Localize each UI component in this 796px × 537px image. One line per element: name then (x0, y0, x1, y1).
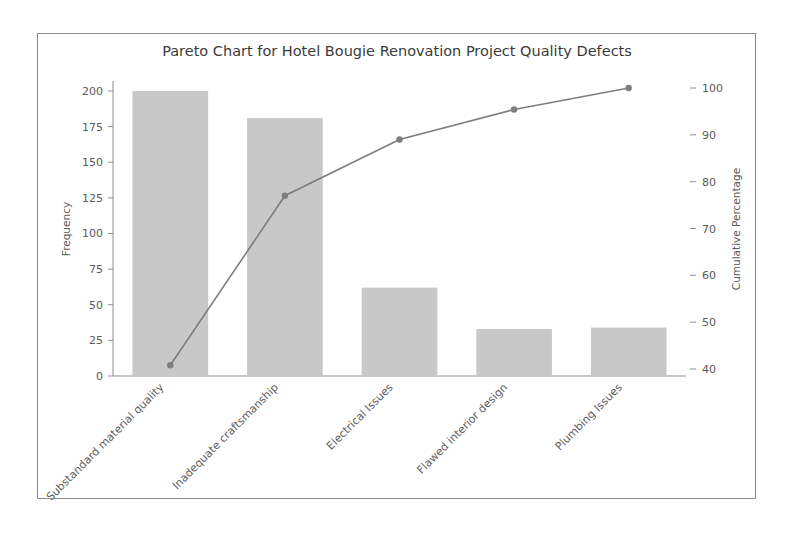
x-tick-label: Electrical Issues (324, 381, 396, 453)
y2-tick-label: 60 (702, 269, 716, 282)
x-tick-label: Plumbing Issues (553, 381, 625, 453)
x-tick-label: Inadequate craftsmanship (170, 381, 281, 492)
pareto-chart: Pareto Chart for Hotel Bougie Renovation… (0, 0, 796, 537)
cumulative-marker (396, 136, 402, 142)
x-tick-label: Substandard material quality (44, 381, 167, 504)
y-tick-label: 75 (89, 263, 103, 276)
y-tick-label: 50 (89, 299, 103, 312)
y2-tick-label: 90 (702, 129, 716, 142)
y2-tick-label: 70 (702, 223, 716, 236)
chart-svg: Pareto Chart for Hotel Bougie Renovation… (0, 0, 796, 537)
bars-group (132, 91, 666, 376)
y-tick-label: 100 (82, 227, 103, 240)
y2-tick-label: 50 (702, 316, 716, 329)
y-tick-label: 25 (89, 334, 103, 347)
y2-tick-label: 80 (702, 176, 716, 189)
cumulative-marker (511, 106, 517, 112)
y-tick-label: 200 (82, 85, 103, 98)
cumulative-marker (282, 193, 288, 199)
left-axis-ticks: 0255075100125150175200 (82, 85, 113, 383)
cumulative-marker (167, 362, 173, 368)
y-tick-label: 125 (82, 192, 103, 205)
y-tick-label: 175 (82, 121, 103, 134)
y-tick-label: 0 (96, 370, 103, 383)
y2-tick-label: 40 (702, 363, 716, 376)
x-tick-label: Flawed interior design (415, 381, 511, 477)
bar (247, 118, 323, 376)
cumulative-marker (626, 85, 632, 91)
y2-tick-label: 100 (702, 82, 723, 95)
bar (362, 288, 438, 376)
bar (132, 91, 208, 376)
right-axis-ticks: 405060708090100 (690, 82, 723, 376)
y-tick-label: 150 (82, 156, 103, 169)
bar (476, 329, 552, 376)
bar (591, 328, 667, 376)
y2-axis-title: Cumulative Percentage (730, 168, 742, 290)
y-axis-title: Frequency (60, 202, 72, 256)
chart-title: Pareto Chart for Hotel Bougie Renovation… (162, 43, 632, 59)
x-axis-category-labels: Substandard material qualityInadequate c… (44, 381, 625, 504)
